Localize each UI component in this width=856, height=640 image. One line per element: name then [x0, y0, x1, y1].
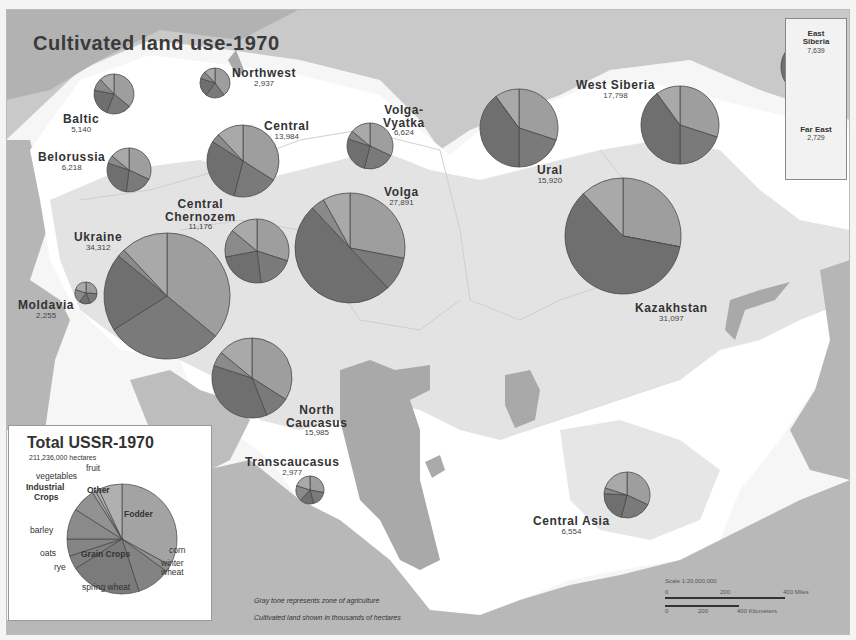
legend-barley: barley	[30, 526, 53, 535]
scale-bar: Scale 1:20,000,000 0 200 400 Miles 0 200…	[665, 578, 845, 618]
pie-ural	[480, 89, 558, 167]
note-units: Cultivated land shown in thousands of he…	[254, 614, 401, 621]
legend-total-ussr: Total USSR-1970 211,236,000 hectares fru…	[8, 425, 212, 621]
pie-volga	[295, 193, 405, 303]
scale-km-bar	[665, 605, 739, 607]
pie-ukraine	[104, 233, 230, 359]
legend-fodder: Fodder	[124, 510, 153, 519]
legend-spring-wheat: spring wheat	[82, 583, 130, 592]
pie-north-caucasus	[212, 338, 292, 418]
inset-east-siberia-far-east: EastSiberia7,639 Far East2,729	[785, 18, 847, 180]
label-central: Central13,984	[264, 120, 310, 141]
legend-industrial-crops: Crops	[34, 493, 59, 502]
label-kazakhstan: Kazakhstan31,097	[635, 302, 708, 323]
legend-fruit: fruit	[86, 464, 100, 473]
legend-vegetables: vegetables	[36, 472, 77, 481]
pie-central-asia	[604, 472, 650, 518]
label-transcaucasus: Transcaucasus2,977	[245, 456, 340, 477]
scale-mi-0: 0	[665, 589, 668, 595]
label-far-east: Far East2,729	[786, 126, 846, 142]
label-moldavia: Moldavia2,255	[18, 299, 74, 320]
scale-km-0: 0	[665, 608, 668, 614]
pie-belorussia	[107, 148, 151, 192]
label-east-siberia: EastSiberia7,639	[786, 30, 846, 54]
scale-km-200: 200	[698, 608, 708, 614]
legend-pie-slices	[67, 484, 177, 594]
scale-title: Scale 1:20,000,000	[665, 578, 717, 584]
pie-baltic	[94, 74, 134, 114]
legend-industrial: Industrial	[26, 483, 64, 492]
label-ukraine: Ukraine34,312	[74, 231, 122, 252]
label-ural: Ural15,920	[537, 164, 563, 185]
label-belorussia: Belorussia6,218	[38, 151, 105, 172]
legend-grain-crops: Grain Crops	[81, 550, 130, 559]
legend-other: Other	[87, 486, 110, 495]
legend-winter-wheat: wheat	[161, 568, 184, 577]
legend-corn: corn	[169, 546, 186, 555]
pie-transcaucasus	[296, 476, 324, 504]
label-baltic: Baltic5,140	[63, 113, 99, 134]
note-gray-tone: Gray tone represents zone of agriculture	[254, 597, 379, 604]
scale-mi-400: 400 Miles	[783, 589, 809, 595]
label-north-caucasus: NorthCaucasus15,985	[286, 404, 348, 438]
pie-northwest	[200, 68, 230, 98]
label-central-asia: Central Asia6,554	[533, 515, 610, 536]
legend-rye: rye	[54, 563, 66, 572]
scale-mi-200: 200	[720, 589, 730, 595]
label-volga-vyatka: Volga-Vyatka6,624	[383, 104, 425, 138]
scale-miles-bar	[665, 597, 785, 599]
pie-moldavia	[75, 282, 97, 304]
label-northwest: Northwest2,937	[232, 67, 296, 88]
pie-kazakhstan	[565, 178, 681, 294]
scale-km-400: 400 Kilometers	[737, 608, 777, 614]
legend-oats: oats	[40, 549, 56, 558]
label-volga: Volga27,891	[384, 186, 419, 207]
label-west-siberia: West Siberia17,798	[576, 79, 655, 100]
label-central-chernozem: CentralChernozem11,176	[165, 198, 236, 232]
